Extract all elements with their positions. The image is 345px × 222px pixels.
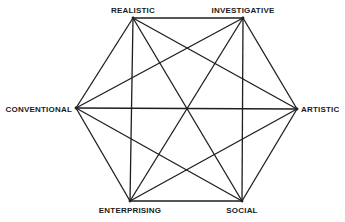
label-investigative: INVESTIGATIVE	[212, 6, 275, 15]
label-social: SOCIAL	[226, 206, 257, 215]
vertex-e	[129, 200, 132, 203]
edge-c-r	[76, 18, 133, 108]
vertex-i	[242, 17, 245, 20]
label-artistic: ARTISTIC	[301, 105, 340, 114]
vertex-c	[75, 107, 78, 110]
hexagon-diagram: REALISTIC INVESTIGATIVE ARTISTIC SOCIAL …	[0, 0, 345, 222]
vertex-a	[296, 108, 299, 111]
edge-a-c	[76, 108, 297, 109]
edge-i-a	[243, 18, 297, 109]
label-enterprising: ENTERPRISING	[99, 206, 161, 215]
edge-s-c	[76, 108, 242, 201]
edge-a-e	[130, 109, 297, 201]
edge-e-c	[76, 108, 130, 201]
edge-a-s	[242, 109, 297, 201]
edge-r-e	[130, 18, 133, 201]
edge-i-s	[242, 18, 243, 201]
edges-group	[75, 17, 299, 203]
vertex-s	[241, 200, 244, 203]
vertex-r	[132, 17, 135, 20]
label-conventional: CONVENTIONAL	[6, 105, 72, 114]
labels-group: REALISTIC INVESTIGATIVE ARTISTIC SOCIAL …	[6, 6, 340, 215]
edge-i-c	[76, 18, 243, 108]
label-realistic: REALISTIC	[111, 6, 155, 15]
